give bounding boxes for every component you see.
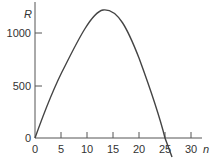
x-tick-5: 5 xyxy=(58,143,64,155)
x-tick-20: 20 xyxy=(133,143,145,155)
y-tick-500: 500 xyxy=(13,80,31,92)
y-axis-label: R xyxy=(24,8,32,20)
chart: 0 500 1000 R 0 5 10 15 20 25 30 n xyxy=(0,0,211,158)
y-axis: 0 500 1000 R xyxy=(7,2,42,144)
y-tick-0: 0 xyxy=(25,132,31,144)
revenue-curve xyxy=(35,10,172,157)
x-tick-30: 30 xyxy=(185,143,197,155)
x-tick-0: 0 xyxy=(32,143,38,155)
y-tick-1000: 1000 xyxy=(7,27,31,39)
x-tick-15: 15 xyxy=(107,143,119,155)
x-axis-label: n xyxy=(203,143,209,155)
x-axis: 0 5 10 15 20 25 30 n xyxy=(32,132,209,155)
x-tick-10: 10 xyxy=(81,143,93,155)
